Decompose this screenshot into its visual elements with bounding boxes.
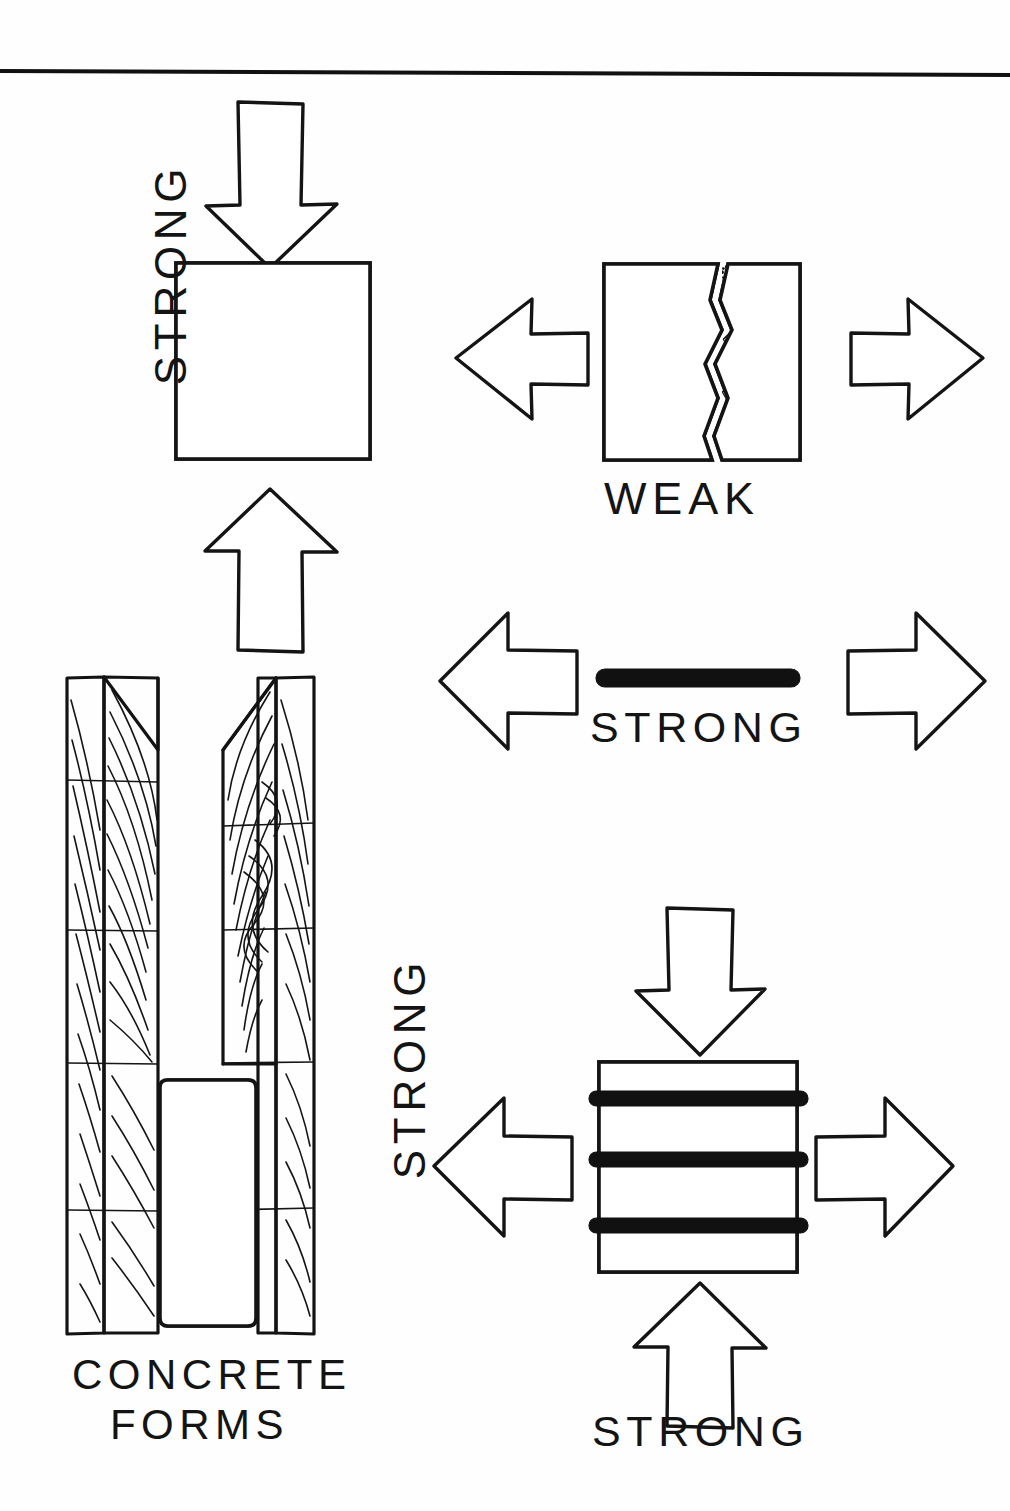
label-strong-reinforced-bottom: STRONG bbox=[592, 1406, 810, 1457]
arrow-down-compression-top bbox=[206, 102, 337, 268]
concrete-forms-illustration bbox=[67, 677, 314, 1334]
concrete-block-reinforced bbox=[599, 1062, 797, 1272]
arrow-right-reinforced bbox=[816, 1098, 953, 1236]
concrete-pour-in-forms bbox=[160, 1080, 256, 1326]
arrow-up-compression-bottom bbox=[205, 489, 337, 652]
steel-bar bbox=[596, 669, 800, 687]
concrete-block-tension-left-half bbox=[604, 264, 722, 460]
label-concrete-forms-line2: FORMS bbox=[110, 1400, 351, 1450]
concrete-block-compression bbox=[176, 263, 370, 459]
label-concrete-forms: CONCRETE FORMS bbox=[72, 1350, 351, 1449]
arrow-left-tension bbox=[456, 299, 588, 419]
rebar-middle bbox=[589, 1152, 808, 1167]
rebar-bottom bbox=[589, 1218, 808, 1233]
label-strong-reinforced-side: STRONG bbox=[384, 952, 436, 1184]
label-concrete-forms-line1: CONCRETE bbox=[72, 1351, 351, 1398]
panel-reinforced-concrete bbox=[434, 908, 953, 1428]
arrow-right-steel bbox=[848, 613, 985, 749]
diagram-page: STRONG WEAK STRONG STRONG STRONG CONCRET… bbox=[0, 0, 1010, 1511]
top-divider-rule bbox=[0, 69, 1010, 77]
arrow-left-reinforced bbox=[434, 1098, 572, 1236]
label-weak-tension: WEAK bbox=[604, 472, 760, 525]
label-strong-compression: STRONG bbox=[145, 159, 197, 389]
arrow-right-tension bbox=[851, 299, 983, 419]
arrow-down-reinforced-top bbox=[636, 908, 765, 1055]
rebar-top bbox=[589, 1091, 808, 1106]
formwork-board-left bbox=[67, 677, 158, 1334]
formwork-board-right bbox=[223, 677, 314, 1334]
label-strong-steel: STRONG bbox=[590, 702, 808, 753]
panel-concrete-tension bbox=[456, 264, 983, 460]
concrete-block-tension-right-half bbox=[714, 264, 800, 460]
panel-concrete-compression bbox=[176, 102, 370, 652]
arrow-left-steel bbox=[440, 613, 577, 749]
